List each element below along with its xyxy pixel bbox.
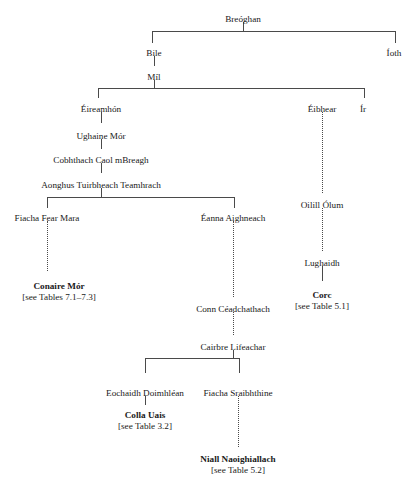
tree-node-ioth: Íoth <box>387 48 402 59</box>
tree-node-colla: Colla Uais <box>125 410 166 421</box>
table-reference-conaire: [see Tables 7.1–7.3] <box>22 292 96 303</box>
connector-conn-cairbre <box>233 312 234 335</box>
tree-node-cairbre: Cairbre Lifeachar <box>200 342 265 353</box>
tree-node-fiachafm: Fiacha Fear Mara <box>15 213 80 224</box>
tree-node-corc: Corc <box>312 290 331 301</box>
tree-node-eochaidh: Eochaidh Doimhléan <box>106 388 184 399</box>
tree-node-eanna: Éanna Aighneach <box>201 213 266 224</box>
tree-node-eibhear: Éibhear <box>308 104 337 115</box>
connector-mil-bracket <box>98 88 365 98</box>
connector-fiachasr-niall <box>238 396 239 447</box>
tree-node-cobhthach: Cobhthach Caol mBreagh <box>53 155 148 166</box>
tree-node-eireamhon: Éireamhón <box>81 104 121 115</box>
connector-breoghan-bracket <box>152 31 396 43</box>
tree-node-breoghan: Breóghan <box>225 14 261 25</box>
tree-node-ughaine: Ughaine Mór <box>76 131 125 142</box>
connector-oilill-lughaidh <box>322 208 323 251</box>
tree-node-aonghus: Aonghus Tuirbheach Teamhrach <box>41 180 161 191</box>
connector-eanna-conn <box>233 221 234 297</box>
table-reference-niall: [see Table 5.2] <box>211 465 265 476</box>
connector-eibhear-oilill <box>322 112 323 193</box>
connector-aonghus-bracket <box>47 197 235 208</box>
tree-node-conaire: Conaire Mór <box>33 281 84 292</box>
genealogical-tree-diagram: BreóghanBileÍothMílÉireamhónÉibhearÍrUgh… <box>0 0 416 485</box>
tree-node-mil: Míl <box>147 72 160 83</box>
table-reference-colla: [see Table 3.2] <box>118 421 172 432</box>
connector-cairbre-bracket <box>145 358 240 373</box>
tree-node-conn: Conn Céadchathach <box>196 304 270 315</box>
table-reference-corc: [see Table 5.1] <box>295 301 349 312</box>
tree-node-lughaidh: Lughaidh <box>304 258 339 269</box>
connector-fiacha-conaire <box>47 221 48 271</box>
tree-node-niall: Niall Naoighiallach <box>200 454 275 465</box>
tree-node-fiachasr: Fiacha Sraibhthine <box>203 388 272 399</box>
tree-node-ir: Ír <box>360 104 366 115</box>
tree-node-bile: Bile <box>146 48 161 59</box>
tree-node-oilill: Oilill Ólum <box>301 200 344 211</box>
